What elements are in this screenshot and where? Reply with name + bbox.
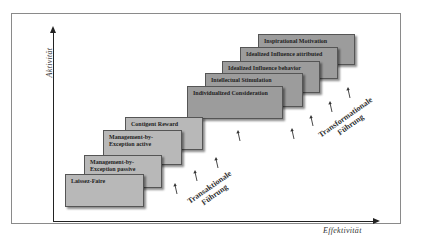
arrow-up-icon (345, 87, 353, 99)
box-label: Individualized Consideration (193, 90, 268, 96)
box-label: Intellectual Stimulation (211, 77, 272, 83)
x-axis-arrowhead-icon (373, 218, 380, 224)
arrow-up-icon (235, 130, 243, 142)
box-label: Inspirational Motivation (264, 38, 327, 44)
y-axis-label: Aktivität (45, 28, 54, 98)
arrow-up-icon (289, 128, 297, 140)
x-axis-line (53, 221, 375, 222)
box-label: Management-by-Exception passive (90, 159, 136, 172)
arrow-up-icon (213, 157, 221, 169)
box-laissez-faire: Laissez-Faire (65, 174, 144, 207)
box-label: Idealized Influence behavior (228, 65, 301, 71)
arrow-up-icon (192, 170, 200, 182)
arrow-up-icon (172, 183, 180, 195)
arrow-up-icon (308, 115, 316, 127)
box-individualized-consideration: Individualized Consideration (187, 86, 283, 119)
box-label: Contigent Reward (131, 121, 178, 127)
arrow-up-icon (327, 101, 335, 113)
box-label: Idealized Influence attributed (246, 51, 322, 57)
box-label: Management-by-Exception active (109, 134, 153, 147)
x-axis-label: Effektivität (323, 226, 362, 235)
box-label: Laissez-Faire (71, 178, 105, 184)
